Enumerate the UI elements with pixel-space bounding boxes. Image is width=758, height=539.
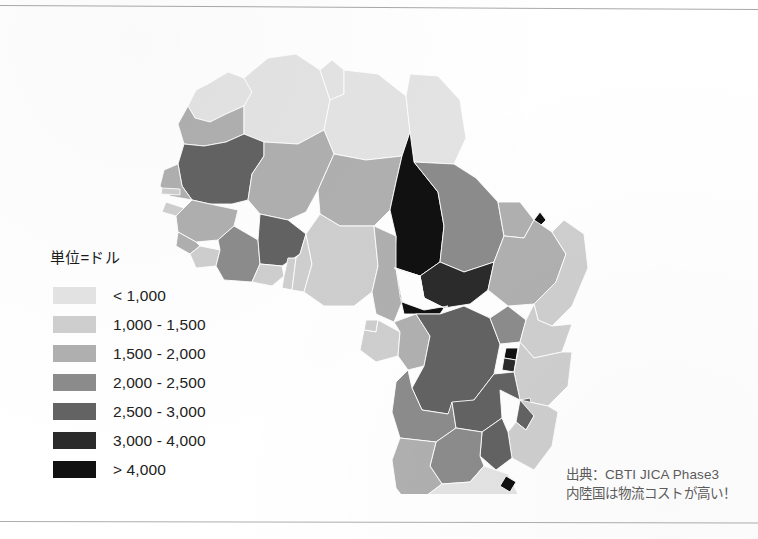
region-nigeria[interactable]	[304, 214, 378, 306]
legend-item[interactable]: 3,000 - 4,000	[48, 426, 258, 455]
legend-item[interactable]: 2,000 - 2,500	[48, 368, 258, 397]
legend-item[interactable]: 1,000 - 1,500	[48, 310, 258, 339]
legend: 単位=ドル < 1,000 1,000 - 1,500 1,500 - 2,00…	[48, 246, 258, 484]
legend-label: > 4,000	[113, 461, 166, 479]
scanned-page: 単位=ドル < 1,000 1,000 - 1,500 1,500 - 2,00…	[0, 0, 758, 539]
legend-label: 2,000 - 2,500	[113, 374, 206, 392]
page-rule-bottom	[0, 521, 758, 524]
region-niger[interactable]	[318, 154, 402, 226]
region-burundi[interactable]	[502, 358, 516, 372]
legend-swatch	[53, 316, 96, 333]
legend-swatch	[53, 374, 96, 391]
region-gambia[interactable]	[161, 188, 180, 195]
annotation-line: 内陸国は物流コストが高い！	[566, 484, 736, 503]
legend-item[interactable]: 1,500 - 2,000	[48, 339, 258, 368]
legend-item[interactable]: < 1,000	[48, 281, 258, 310]
legend-title: 単位=ドル	[50, 246, 258, 267]
legend-item[interactable]: 2,500 - 3,000	[48, 397, 258, 426]
region-mozambique[interactable]	[508, 400, 558, 470]
source-line: 出典：CBTI JICA Phase3	[566, 465, 736, 484]
legend-label: 2,500 - 3,000	[113, 403, 206, 421]
legend-swatch	[53, 345, 96, 362]
legend-swatch	[53, 432, 96, 449]
legend-label: 1,500 - 2,000	[113, 345, 206, 363]
legend-label: < 1,000	[113, 287, 166, 305]
legend-swatch	[53, 403, 96, 420]
source-note: 出典：CBTI JICA Phase3 内陸国は物流コストが高い！	[566, 465, 736, 503]
legend-swatch	[53, 287, 96, 304]
legend-item[interactable]: > 4,000	[48, 455, 258, 484]
page-rule-top	[0, 5, 758, 10]
legend-label: 1,000 - 1,500	[113, 316, 206, 334]
legend-swatch	[53, 461, 96, 478]
region-egypt[interactable]	[406, 74, 466, 164]
region-algeria[interactable]	[244, 54, 330, 144]
legend-label: 3,000 - 4,000	[113, 432, 206, 450]
